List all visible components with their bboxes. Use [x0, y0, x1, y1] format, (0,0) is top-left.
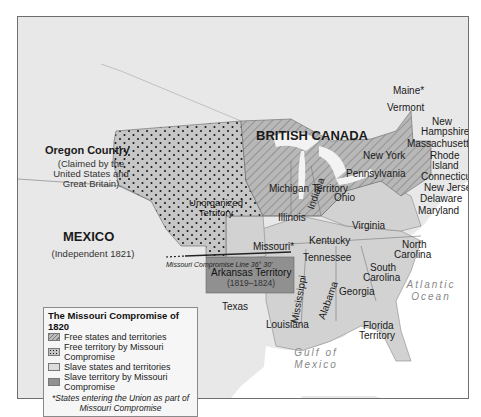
- legend-item-free-states: Free states and territories: [48, 332, 193, 342]
- legend-item-slave-states: Slave states and territories: [48, 362, 193, 372]
- label-rhode-island-2: Island: [432, 160, 459, 171]
- label-north-carolina-2: Carolina: [394, 249, 431, 260]
- label-new-jersey: New Jersey: [424, 182, 469, 193]
- label-louisiana: Louisiana: [266, 319, 309, 330]
- label-connecticut: Connecticut: [421, 171, 469, 182]
- label-mexico-note: (Independent 1821): [48, 248, 138, 259]
- label-arkansas-years: (1819–1824): [221, 278, 281, 289]
- label-texas: Texas: [222, 301, 248, 312]
- label-michigan: Michigan: [269, 183, 309, 194]
- label-new-hampshire-2: Hampshire: [421, 126, 469, 137]
- label-oregon-country: Oregon Country: [45, 145, 129, 156]
- legend-item-slave-compromise: Slave territory by Missouri Compromise: [48, 372, 193, 392]
- label-florida-2: Territory: [359, 330, 395, 341]
- label-missouri: Missouri*: [253, 241, 294, 252]
- label-mexico: MEXICO: [63, 231, 114, 242]
- label-gulf-2: Mexico: [286, 359, 346, 371]
- label-massachusetts: Massachusetts: [407, 138, 469, 149]
- label-unorganized-2: Territory: [186, 207, 246, 218]
- label-atlantic-1: Atlantic: [401, 279, 461, 291]
- legend-note-2: Missouri Compromise: [48, 403, 193, 413]
- label-kentucky: Kentucky: [309, 235, 350, 246]
- dotted-swatch-icon: [48, 348, 60, 356]
- legend-label: Free territory by Missouri Compromise: [64, 342, 193, 362]
- label-maryland: Maryland: [418, 205, 459, 216]
- label-tennessee: Tennessee: [303, 252, 351, 263]
- label-ohio: Ohio: [334, 192, 355, 203]
- legend-item-free-compromise: Free territory by Missouri Compromise: [48, 342, 193, 362]
- label-delaware: Delaware: [420, 193, 462, 204]
- label-maine: Maine*: [393, 85, 424, 96]
- label-illinois: Illinois: [278, 212, 306, 223]
- hatched-swatch-icon: [48, 333, 60, 341]
- label-gulf-1: Gulf of: [286, 347, 346, 359]
- label-new-york: New York: [363, 150, 405, 161]
- legend-title: The Missouri Compromise of 1820: [48, 310, 193, 332]
- label-georgia: Georgia: [339, 286, 375, 297]
- label-oregon-note-3: Great Britain): [51, 178, 131, 189]
- legend-label: Slave territory by Missouri Compromise: [64, 372, 193, 392]
- light-swatch-icon: [48, 363, 60, 371]
- label-british-canada: BRITISH CANADA: [256, 130, 368, 141]
- label-virginia: Virginia: [352, 220, 385, 231]
- map-legend: The Missouri Compromise of 1820 Free sta…: [43, 307, 198, 417]
- legend-label: Free states and territories: [64, 332, 167, 342]
- label-atlantic-2: Ocean: [401, 291, 461, 303]
- legend-label: Slave states and territories: [64, 362, 171, 372]
- dark-swatch-icon: [48, 378, 60, 386]
- legend-note-1: *States entering the Union as part of: [48, 393, 193, 403]
- label-pennsylvania: Pennsylvania: [346, 168, 405, 179]
- label-south-carolina-2: Carolina: [363, 272, 400, 283]
- label-vermont: Vermont: [387, 102, 424, 113]
- label-arkansas-territory: Arkansas Territory: [211, 267, 291, 278]
